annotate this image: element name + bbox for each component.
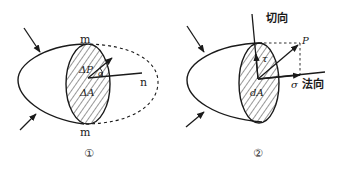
label-angle-alpha: α	[98, 69, 104, 78]
label-delta-a: ΔA	[79, 87, 94, 98]
label-tangential: 切向	[266, 11, 288, 25]
label-m-top: m	[80, 33, 91, 46]
label-m-bottom: m	[80, 126, 91, 139]
label-p: P	[301, 35, 309, 46]
caption-figure-2: ②	[253, 147, 263, 160]
stress-diagram: m m ΔP ΔA α n ① 切向 P τ σ 法向 dA ②	[0, 0, 341, 172]
cross-section-hatched	[66, 44, 110, 124]
force-arrow-bottom	[20, 114, 36, 130]
label-normal-n: n	[140, 76, 147, 89]
label-normal: 法向	[302, 77, 324, 91]
label-da: dA	[250, 87, 264, 98]
force-arrow-bottom	[186, 112, 204, 127]
label-sigma: σ	[291, 79, 299, 90]
label-tau: τ	[262, 53, 268, 64]
figure-2: 切向 P τ σ 法向 dA ②	[186, 11, 325, 160]
label-delta-p: ΔP	[78, 64, 93, 75]
force-arrow-top	[187, 26, 204, 52]
cross-section-hatched	[239, 43, 279, 123]
caption-figure-1: ①	[84, 147, 94, 160]
force-arrow-top	[24, 28, 40, 52]
figure-1: m m ΔP ΔA α n ①	[18, 28, 158, 160]
